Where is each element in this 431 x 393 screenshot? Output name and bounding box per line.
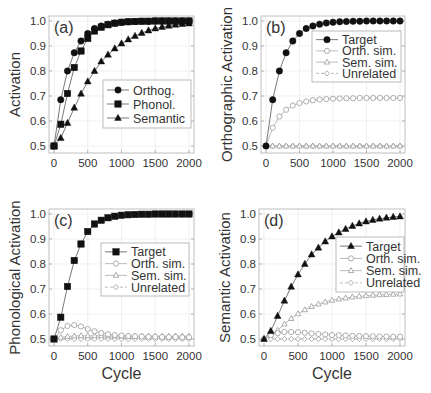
circle-marker-icon xyxy=(118,19,124,25)
circle-marker-icon xyxy=(263,143,269,149)
circle-marker-icon xyxy=(316,21,322,27)
square-marker-icon xyxy=(186,211,192,217)
circle-marker-icon xyxy=(348,256,353,261)
y-tick-label: 0.9 xyxy=(30,40,46,52)
circle-marker-icon xyxy=(377,95,382,100)
legend-entry-label: Unrelated xyxy=(342,67,396,81)
x-tick-label: 0 xyxy=(51,350,57,362)
y-tick-label: 0.8 xyxy=(240,258,256,270)
x-tick-label: 0 xyxy=(263,157,269,169)
square-marker-icon xyxy=(85,228,91,234)
triangle-marker-icon xyxy=(377,292,382,297)
chart-canvas: 0.50.60.70.80.91.00500100015002000Activa… xyxy=(0,0,431,393)
x-tick-label: 2000 xyxy=(176,350,202,362)
circle-marker-icon xyxy=(363,334,368,339)
circle-marker-icon xyxy=(115,87,121,93)
triangle-marker-icon xyxy=(282,321,287,326)
circle-marker-icon xyxy=(119,333,124,338)
circle-marker-icon xyxy=(105,21,111,27)
circle-marker-icon xyxy=(329,332,334,337)
x-tick-label: 2000 xyxy=(387,157,413,169)
y-tick-label: 0.9 xyxy=(242,40,258,52)
circle-marker-icon xyxy=(277,114,282,119)
circle-marker-icon xyxy=(336,333,341,338)
circle-marker-icon xyxy=(270,125,275,130)
circle-marker-icon xyxy=(397,18,403,24)
circle-marker-icon xyxy=(350,333,355,338)
y-tick-label: 0.6 xyxy=(242,115,258,127)
y-tick-label: 0.5 xyxy=(30,140,46,152)
square-marker-icon xyxy=(152,211,158,217)
circle-marker-icon xyxy=(295,330,300,335)
x-axis-label: Cycle xyxy=(101,365,141,382)
x-tick-label: 2000 xyxy=(176,157,202,169)
circle-marker-icon xyxy=(337,96,342,101)
circle-marker-icon xyxy=(316,331,321,336)
triangle-marker-icon xyxy=(370,292,375,297)
circle-marker-icon xyxy=(390,18,396,24)
square-marker-icon xyxy=(179,211,185,217)
circle-marker-icon xyxy=(289,329,294,334)
legend-entry-label: Semantic xyxy=(133,112,185,126)
circle-marker-icon xyxy=(344,96,349,101)
triangle-marker-icon xyxy=(274,312,281,318)
circle-marker-icon xyxy=(384,95,389,100)
y-tick-label: 0.7 xyxy=(30,283,46,295)
x-tick-label: 1000 xyxy=(109,350,135,362)
circle-marker-icon xyxy=(132,334,137,339)
square-marker-icon xyxy=(115,101,121,107)
y-tick-label: 0.7 xyxy=(240,283,256,295)
y-tick-label: 0.9 xyxy=(240,233,256,245)
legend: TargetOrth. sim.Sem. sim.Unrelated xyxy=(312,31,401,82)
circle-marker-icon xyxy=(363,18,369,24)
circle-marker-icon xyxy=(159,18,165,24)
y-tick-label: 1.0 xyxy=(30,208,46,220)
circle-marker-icon xyxy=(304,99,309,104)
panel-label: (d) xyxy=(264,212,284,229)
triangle-marker-icon xyxy=(315,244,322,250)
circle-marker-icon xyxy=(152,18,158,24)
x-tick-label: 500 xyxy=(290,157,309,169)
circle-marker-icon xyxy=(364,95,369,100)
circle-marker-icon xyxy=(371,95,376,100)
triangle-marker-icon xyxy=(72,333,77,338)
square-marker-icon xyxy=(172,211,178,217)
circle-marker-icon xyxy=(309,331,314,336)
triangle-marker-icon xyxy=(78,333,83,338)
circle-marker-icon xyxy=(384,334,389,339)
circle-marker-icon xyxy=(324,96,329,101)
circle-marker-icon xyxy=(125,19,131,25)
y-tick-label: 0.8 xyxy=(30,65,46,77)
circle-marker-icon xyxy=(383,18,389,24)
y-tick-label: 0.8 xyxy=(242,65,258,77)
circle-marker-icon xyxy=(323,332,328,337)
circle-marker-icon xyxy=(173,334,178,339)
y-tick-label: 0.6 xyxy=(30,115,46,127)
diamond-marker-icon xyxy=(309,336,314,341)
circle-marker-icon xyxy=(92,329,97,334)
triangle-marker-icon xyxy=(57,134,64,140)
panel-a: 0.50.60.70.80.91.00500100015002000Activa… xyxy=(6,15,202,169)
circle-marker-icon xyxy=(302,330,307,335)
circle-marker-icon xyxy=(297,100,302,105)
diamond-marker-icon xyxy=(289,336,294,341)
y-tick-label: 0.6 xyxy=(30,308,46,320)
panel-label: (b) xyxy=(266,19,286,36)
circle-marker-icon xyxy=(282,329,287,334)
circle-marker-icon xyxy=(78,324,83,329)
square-marker-icon xyxy=(64,283,70,289)
y-axis-label: Activation xyxy=(6,52,23,117)
circle-marker-icon xyxy=(91,25,97,31)
x-axis-label: Cycle xyxy=(312,365,352,382)
square-marker-icon xyxy=(78,48,84,54)
x-tick-label: 2000 xyxy=(387,350,413,362)
circle-marker-icon xyxy=(290,38,296,44)
square-marker-icon xyxy=(112,213,118,219)
y-tick-label: 0.8 xyxy=(30,258,46,270)
x-tick-label: 0 xyxy=(261,350,267,362)
panel-c: 0.50.60.70.80.91.00500100015002000Phonol… xyxy=(6,200,202,382)
square-marker-icon xyxy=(139,211,145,217)
triangle-marker-icon xyxy=(356,293,361,298)
circle-marker-icon xyxy=(310,23,316,29)
square-marker-icon xyxy=(166,211,172,217)
